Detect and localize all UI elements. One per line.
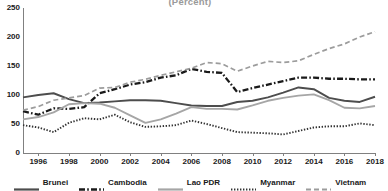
x-tick-mark: [130, 153, 131, 156]
y-tick-label: 150: [0, 62, 20, 70]
x-tick-label: 2018: [362, 157, 388, 166]
x-tick-mark: [222, 153, 223, 156]
legend-label: Cambodia: [108, 179, 147, 187]
x-tick-mark: [161, 153, 162, 156]
y-tick-label: 200: [0, 33, 20, 41]
legend-swatch-icon: [231, 179, 256, 186]
legend-swatch-icon: [158, 179, 183, 186]
series-line-myanmar: [23, 115, 375, 135]
chart-title: (Percent): [0, 0, 380, 7]
x-tick-mark: [100, 153, 101, 156]
legend-item-vietnam[interactable]: Vietnam: [306, 179, 366, 187]
legend-label: Lao PDR: [187, 179, 220, 187]
x-tick-label: 2004: [148, 157, 174, 166]
legend-swatch-icon: [14, 179, 39, 186]
x-tick-mark: [375, 153, 376, 156]
legend-item-lao-pdr[interactable]: Lao PDR: [158, 179, 220, 187]
x-tick-mark: [253, 153, 254, 156]
x-tick-label: 2002: [117, 157, 143, 166]
y-tick-label: 50: [0, 120, 20, 128]
x-tick-mark: [191, 153, 192, 156]
x-tick-mark: [38, 153, 39, 156]
x-tick-label: 2000: [87, 157, 113, 166]
y-tick-label: 0: [0, 149, 20, 157]
x-tick-label: 2016: [331, 157, 357, 166]
x-tick-label: 2006: [178, 157, 204, 166]
y-tick-label: 100: [0, 91, 20, 99]
x-tick-label: 1998: [56, 157, 82, 166]
legend-swatch-icon: [306, 179, 331, 186]
legend-item-brunei[interactable]: Brunei: [14, 179, 68, 187]
plot-area: [23, 8, 375, 153]
legend-item-cambodia[interactable]: Cambodia: [79, 179, 147, 187]
x-tick-label: 1996: [25, 157, 51, 166]
series-lines: [23, 8, 375, 153]
legend-item-myanmar[interactable]: Myanmar: [231, 179, 295, 187]
x-tick-label: 2014: [301, 157, 327, 166]
x-tick-mark: [69, 153, 70, 156]
legend-label: Vietnam: [335, 179, 366, 187]
x-tick-label: 2008: [209, 157, 235, 166]
series-line-lao-pdr: [23, 94, 375, 122]
legend-swatch-icon: [79, 179, 104, 186]
chart-legend: BruneiCambodiaLao PDRMyanmarVietnam: [0, 176, 380, 189]
legend-label: Brunei: [43, 179, 68, 187]
legend-label: Myanmar: [260, 179, 295, 187]
x-tick-label: 2012: [270, 157, 296, 166]
x-tick-mark: [344, 153, 345, 156]
x-tick-mark: [314, 153, 315, 156]
x-tick-mark: [283, 153, 284, 156]
x-axis-line: [23, 153, 375, 154]
y-tick-label: 250: [0, 4, 20, 12]
x-tick-label: 2010: [240, 157, 266, 166]
